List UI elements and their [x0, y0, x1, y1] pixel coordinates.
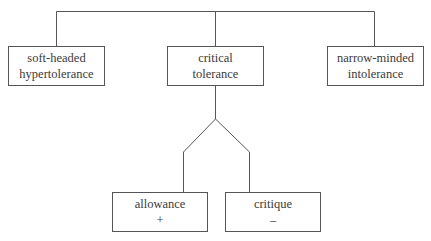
node-allowance: allowance + [112, 192, 208, 232]
node-critique: critique – [225, 192, 321, 232]
node-label-line-1: soft-headed [27, 50, 85, 66]
fork-left-branch [184, 119, 216, 192]
plus-sign: + [156, 212, 163, 228]
node-label: allowance [135, 196, 186, 212]
node-label-line-2: intolerance [348, 66, 404, 82]
node-label-line-2: tolerance [193, 66, 239, 82]
node-label-line-2: hypertolerance [19, 66, 93, 82]
node-soft-headed-hypertolerance: soft-headed hypertolerance [8, 46, 105, 86]
node-label: critique [254, 196, 292, 212]
node-label-line-1: critical [198, 50, 233, 66]
fork-right-branch [216, 119, 250, 192]
node-label-line-1: narrow-minded [337, 50, 414, 66]
minus-sign: – [270, 212, 276, 228]
connector-lines [0, 0, 431, 241]
node-narrow-minded-intolerance: narrow-minded intolerance [327, 46, 424, 86]
node-critical-tolerance: critical tolerance [167, 46, 264, 86]
